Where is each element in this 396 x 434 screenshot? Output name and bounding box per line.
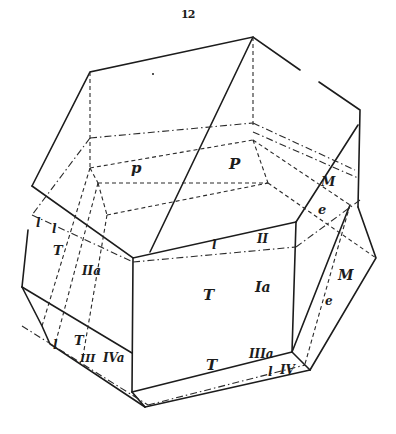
label-Ia: Ia [254,279,271,295]
label-III: III [79,352,96,365]
label-T-bottom: T [206,356,219,374]
label-l-left: l [36,216,41,230]
solid-edges [22,37,376,407]
label-e-right: e [325,294,333,308]
label-l-center: l [212,238,217,252]
label-IIa: IIa [81,264,101,278]
label-II: II [256,232,269,246]
label-l-lower-left: l [53,338,58,352]
label-l-left-2: l [52,222,57,236]
label-T-center: T [203,286,216,304]
dot-mark [152,73,154,75]
label-M-upper: M [320,174,336,189]
label-e-upper: e [318,202,326,217]
label-l-bottom: l [268,365,273,379]
label-p: p [131,159,142,177]
label-T-lower-left: T [74,333,85,348]
label-IVa: IVa [102,351,125,365]
label-IIIa: IIIa [248,347,274,361]
label-P: P [228,155,241,173]
label-IV: IV [279,363,297,377]
crystal-diagram: p P M e l l T IIa l II T Ia M e l T III … [0,0,396,434]
label-T-left: T [53,243,64,258]
label-M-right: M [337,267,354,283]
